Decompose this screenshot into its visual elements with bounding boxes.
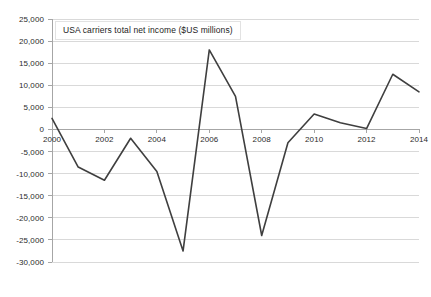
y-tick-label: 15,000 xyxy=(0,59,44,68)
x-tick-label: 2008 xyxy=(253,135,271,144)
x-tick-label: 2014 xyxy=(410,135,428,144)
y-tick-label: 25,000 xyxy=(0,15,44,24)
y-tick-label: -20,000 xyxy=(0,213,44,222)
y-tick-label: -25,000 xyxy=(0,235,44,244)
x-tick-label: 2010 xyxy=(305,135,323,144)
x-tick-label: 2006 xyxy=(200,135,218,144)
plot-area: 25,00020,00015,00010,0005,0000-5,000-10,… xyxy=(0,0,431,297)
y-tick-label: -15,000 xyxy=(0,191,44,200)
x-tick-label: 2004 xyxy=(148,135,166,144)
chart-title: USA carriers total net income ($US milli… xyxy=(55,21,241,40)
y-tick-label: 20,000 xyxy=(0,37,44,46)
y-tick-label: 0 xyxy=(0,125,44,134)
y-tick-label: -5,000 xyxy=(0,147,44,156)
y-tick-label: -10,000 xyxy=(0,169,44,178)
x-tick-label: 2012 xyxy=(357,135,375,144)
x-tick-label: 2002 xyxy=(95,135,113,144)
chart-svg xyxy=(0,0,431,297)
y-tick-label: 10,000 xyxy=(0,81,44,90)
y-tick-label: -30,000 xyxy=(0,258,44,267)
x-tick-label: 2000 xyxy=(43,135,61,144)
y-tick-label: 5,000 xyxy=(0,103,44,112)
data-series-line xyxy=(52,50,419,251)
net-income-line-chart: USA carriers total net income ($US milli… xyxy=(0,0,431,297)
